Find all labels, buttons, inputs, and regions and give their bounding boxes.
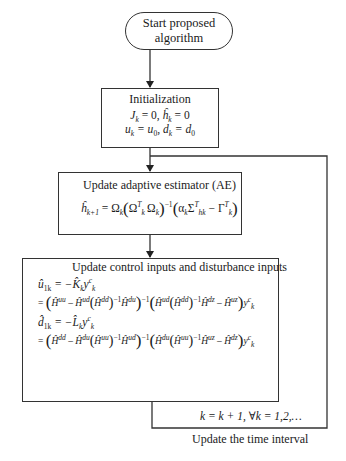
ae-title: Update adaptive estimator (AE) [59, 178, 241, 193]
start-label-line1: Start proposed [126, 16, 232, 31]
u-expression: = (Ĥuu – Ĥud(Ĥdd)−1Ĥdu)−1(Ĥud(Ĥdd)… [23, 293, 278, 313]
init-equation-2: uk = u0, dk = d0 [102, 123, 218, 135]
start-terminal: Start proposed algorithm [125, 12, 233, 50]
ae-equation: ĥk+1 = Ωk(ΩTk Ωk)−1(αkΣThk − ΓTk) [59, 199, 241, 219]
d-equation-line: d̂1k = −L̂kyck [23, 316, 278, 328]
u-equation-line: û1k = −K̂kyck [23, 278, 278, 290]
loop-caption: Update the time interval [192, 432, 308, 447]
initialization-title: Initialization [102, 92, 218, 107]
initialization-box: Initialization Jk = 0, ĥk = 0 uk = u0, … [101, 88, 219, 148]
adaptive-estimator-box: Update adaptive estimator (AE) ĥk+1 = Ω… [58, 172, 242, 235]
start-label-line2: algorithm [126, 31, 232, 46]
init-equation-1: Jk = 0, ĥk = 0 [102, 109, 218, 121]
d-expression: = (Ĥdd – Ĥdu(Ĥuu)−1Ĥud)−1(Ĥdu(Ĥuu)… [23, 331, 278, 351]
control-inputs-box: Update control inputs and disturbance in… [22, 258, 279, 402]
loop-increment-label: k = k + 1, ∀k = 1,2,… [200, 409, 302, 423]
control-title: Update control inputs and disturbance in… [23, 260, 278, 275]
